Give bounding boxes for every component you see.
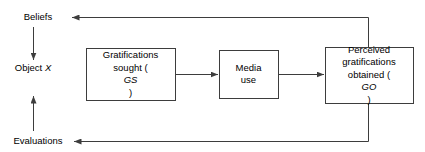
uses-and-gratifications-diagram: Beliefs Object X Evaluations Gratificati… xyxy=(0,0,425,152)
box-gs-line-2-italic: GS xyxy=(113,74,147,87)
stage-label-evaluations: Evaluations xyxy=(0,135,76,147)
box-go-line-3-prefix: obtained ( xyxy=(348,69,390,82)
connector-go-to-evaluations-feedback xyxy=(74,104,369,142)
box-gs-line-1: Gratifications xyxy=(103,49,158,62)
stage-label-object-text: Object xyxy=(15,62,42,73)
stage-label-object-subscript: X xyxy=(45,62,51,73)
box-go-line-3: obtained (GO) xyxy=(348,69,390,107)
box-gs-line-2-prefix: sought ( xyxy=(113,62,147,75)
box-go-line-3-italic: GO xyxy=(348,81,390,94)
box-gs-line-2-suffix: ) xyxy=(113,87,147,100)
box-label-gratifications-sought: Gratifications sought (GS) xyxy=(86,48,175,100)
stage-label-beliefs: Beliefs xyxy=(8,11,68,23)
box-go-line-2: gratifications xyxy=(342,56,395,69)
box-go-line-3-suffix: ) xyxy=(348,94,390,107)
stage-label-object: Object X xyxy=(3,62,63,74)
box-label-media-use: Media use xyxy=(219,50,278,98)
connector-go-to-beliefs-feedback xyxy=(72,18,369,48)
box-media-line-1: Media xyxy=(236,62,262,75)
box-gs-line-2: sought (GS) xyxy=(113,62,147,100)
box-label-perceived-gratifications-obtained: Perceived gratifications obtained (GO) xyxy=(325,47,413,103)
box-go-line-1: Perceived xyxy=(348,44,390,57)
box-media-line-2: use xyxy=(241,74,256,87)
